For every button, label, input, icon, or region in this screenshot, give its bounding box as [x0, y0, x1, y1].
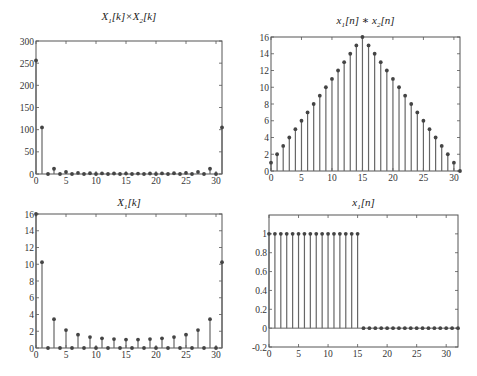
stem-marker [344, 232, 348, 236]
stem-marker [450, 326, 454, 330]
stem-marker [415, 326, 419, 330]
x-tick-label: 30 [441, 349, 451, 359]
stem-marker [338, 232, 342, 236]
stem-marker [421, 326, 425, 330]
stem-marker [332, 232, 336, 236]
stem-marker [391, 326, 395, 330]
stem-marker [432, 326, 436, 330]
stem-marker [356, 232, 360, 236]
stem-marker [273, 232, 277, 236]
x-tick-label: 15 [353, 349, 363, 359]
x-tick-label: 10 [323, 349, 333, 359]
stem-marker [267, 232, 271, 236]
stem-marker [397, 326, 401, 330]
stem-marker [303, 232, 307, 236]
y-tick-label: 1 [262, 229, 267, 239]
stem-marker [291, 232, 295, 236]
y-tick-label: 0.4 [255, 286, 267, 296]
stem-marker [297, 232, 301, 236]
x-tick-label: 5 [296, 349, 301, 359]
stem-marker [427, 326, 431, 330]
stem-marker [403, 326, 407, 330]
stem-marker [444, 326, 448, 330]
x-tick-label: 20 [382, 349, 392, 359]
stem-marker [385, 326, 389, 330]
stem-marker [285, 232, 289, 236]
y-tick-label: 0.2 [255, 305, 267, 315]
stem-marker [279, 232, 283, 236]
stem-plot: 051015202530-0.200.20.40.60.81 [0, 0, 477, 376]
stem-marker [308, 232, 312, 236]
stem-marker [362, 326, 366, 330]
stem-marker [326, 232, 330, 236]
stem-marker [320, 232, 324, 236]
x-tick-label: 25 [412, 349, 422, 359]
stem-marker [379, 326, 383, 330]
stem-marker [373, 326, 377, 330]
y-tick-label: 0.6 [255, 267, 267, 277]
stem-marker [456, 326, 460, 330]
y-tick-label: -0.2 [252, 343, 267, 353]
stem-marker [438, 326, 442, 330]
x-tick-label: 0 [267, 349, 272, 359]
y-tick-label: 0.8 [255, 248, 267, 258]
y-tick-label: 0 [262, 324, 267, 334]
stem-marker [314, 232, 318, 236]
stem-marker [409, 326, 413, 330]
stem-marker [368, 326, 372, 330]
stem-marker [350, 232, 354, 236]
